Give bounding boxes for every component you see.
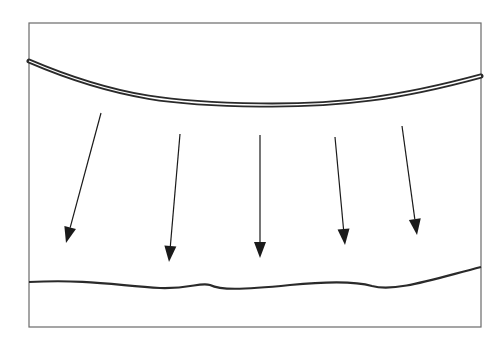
arrowhead-icon	[338, 229, 350, 245]
arrow-4	[335, 137, 349, 245]
arrowhead-icon	[409, 218, 421, 235]
arrowhead-icon	[254, 242, 266, 258]
arrow-3	[254, 135, 266, 258]
arrowhead-icon	[164, 246, 176, 262]
diagram-canvas	[0, 0, 504, 345]
arrow-1	[64, 113, 101, 243]
arrow-2	[164, 134, 180, 262]
downward-arrows	[64, 113, 420, 262]
diagram-frame	[29, 23, 481, 327]
arrow-5	[402, 126, 421, 235]
top-surface-curve	[29, 61, 481, 105]
arrowhead-icon	[64, 226, 76, 243]
bottom-wavy-line	[29, 267, 481, 289]
